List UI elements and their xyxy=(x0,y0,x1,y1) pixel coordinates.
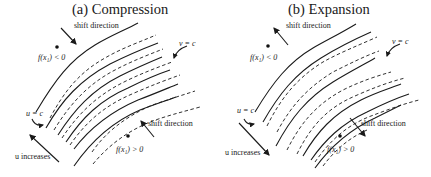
u-eq-c-label: u = c xyxy=(237,107,254,115)
point-x1-positive xyxy=(338,134,342,138)
shift-arrow-top xyxy=(274,28,288,45)
shift-label-top: shift direction xyxy=(74,22,119,30)
panel-compression: (a) Compression xyxy=(0,0,215,177)
u-increases-label: u increases xyxy=(225,149,260,157)
u-eq-c-pointer xyxy=(244,119,254,124)
shift-arrow-top xyxy=(61,28,76,44)
point-x1-negative xyxy=(266,44,270,48)
f-positive-label: f(x₁) > 0 xyxy=(116,146,143,154)
f-negative-label: f(x₁) < 0 xyxy=(38,54,65,62)
shift-label-top: shift direction xyxy=(286,22,331,30)
point-x1-positive xyxy=(126,134,130,138)
point-x1-negative xyxy=(55,45,59,49)
u-eq-c-pointer xyxy=(32,119,43,125)
f-negative-label: f(x₁) < 0 xyxy=(250,54,277,62)
shift-label-bottom: shift direction xyxy=(148,120,193,128)
v-eq-c-label: v = c xyxy=(179,40,196,48)
u-increases-label: u increases xyxy=(15,153,50,161)
panel-expansion: (b) Expansion xyxy=(215,0,430,177)
f-positive-label: f(x₁) > 0 xyxy=(327,146,354,154)
u-eq-c-label: u = c xyxy=(26,110,43,118)
v-eq-c-label: v = c xyxy=(392,38,409,46)
shift-label-bottom: shift direction xyxy=(361,120,406,128)
